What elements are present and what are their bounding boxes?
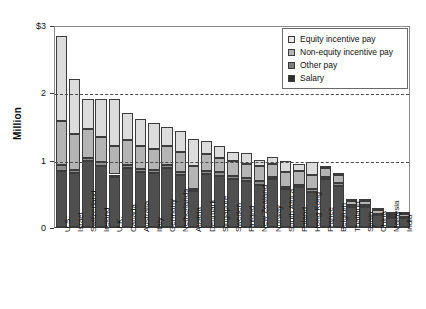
bar-segment-other	[293, 185, 304, 188]
bar-segment-other	[320, 177, 331, 180]
bar-segment-other	[201, 171, 212, 174]
legend-swatch-nonequity	[288, 49, 295, 56]
bar-segment-equity	[56, 36, 67, 121]
bar-segment-nonequity	[69, 134, 80, 170]
x-tick-label: Denmark	[209, 200, 217, 232]
x-tick-label: Ireland	[103, 208, 111, 232]
y-tick-label: 2	[24, 89, 46, 98]
bar-segment-equity	[122, 113, 133, 141]
bar-segment-other	[175, 172, 186, 175]
x-tick-label: Sweden	[235, 203, 243, 232]
x-axis-labels: U.S.IsraelSwitzerlandIrelandU.K.CanadaAu…	[54, 230, 410, 309]
legend-item: Non-equity incentive pay	[288, 46, 402, 58]
bar-segment-other	[82, 158, 93, 161]
bar-segment-equity	[333, 173, 344, 175]
bar-segment-equity	[293, 164, 304, 171]
bar-segment-other	[135, 169, 146, 172]
bar-segment-other	[56, 165, 67, 171]
bar-segment-other	[241, 178, 252, 181]
y-axis-ticks: 012$3	[0, 0, 54, 309]
bar-segment-equity	[109, 99, 120, 146]
gridline	[55, 94, 409, 95]
legend-label: Non-equity incentive pay	[300, 48, 393, 57]
bar-segment-nonequity	[56, 121, 67, 165]
bar-segment-nonequity	[95, 137, 106, 162]
bar-segment-other	[122, 165, 133, 168]
bar-segment-equity	[254, 160, 265, 166]
bar-segment-other	[333, 183, 344, 186]
x-tick-label: Belgium	[340, 203, 348, 232]
x-tick-label: Malaysia	[393, 200, 401, 232]
bar-segment-equity	[69, 79, 80, 134]
legend-item: Equity incentive pay	[288, 33, 402, 45]
bar-segment-other	[95, 162, 106, 165]
legend-item: Salary	[288, 72, 402, 84]
x-tick-label: China	[380, 211, 388, 232]
bar-segment-other	[214, 172, 225, 175]
bar-segment-nonequity	[241, 164, 252, 177]
legend-swatch-equity	[288, 36, 295, 43]
bar-segment-nonequity	[135, 146, 146, 170]
y-tick-mark	[50, 228, 54, 229]
bar-segment-nonequity	[82, 129, 93, 159]
x-tick-label: India	[406, 215, 414, 232]
x-tick-label: Israel	[77, 212, 85, 232]
bar-segment-other	[109, 175, 120, 178]
bar-segment-other	[267, 177, 278, 180]
bar-segment-nonequity	[280, 172, 291, 187]
x-tick-label: Poland	[301, 207, 309, 232]
bar-segment-nonequity	[109, 146, 120, 174]
bar-segment-other	[161, 165, 172, 168]
bar-segment-other	[148, 170, 159, 173]
bar-segment-equity	[227, 152, 238, 161]
x-tick-label: New Zealand	[261, 185, 269, 232]
x-tick-label: Switzerland	[90, 191, 98, 232]
legend-swatch-salary	[288, 75, 295, 82]
bar-segment-other	[227, 176, 238, 179]
gridline	[55, 162, 409, 163]
x-tick-label: U.S.	[64, 216, 72, 232]
legend: Equity incentive payNon-equity incentive…	[282, 28, 408, 89]
bar-segment-nonequity	[320, 168, 331, 177]
bar-segment-equity	[241, 153, 252, 164]
bar-segment-nonequity	[227, 161, 238, 176]
bar-segment-equity	[175, 131, 186, 151]
legend-label: Salary	[300, 74, 324, 83]
legend-label: Other pay	[300, 61, 337, 70]
x-tick-label: Germany	[169, 199, 177, 232]
x-tick-label: Finland	[248, 206, 256, 232]
x-tick-label: U.K.	[116, 216, 124, 232]
bar	[69, 79, 80, 227]
y-tick-label: $3	[24, 22, 46, 31]
legend-label: Equity incentive pay	[300, 35, 376, 44]
x-tick-label: Thailand	[354, 201, 362, 232]
x-tick-label: Singapore	[222, 196, 230, 232]
y-tick-label: 0	[24, 224, 46, 233]
stacked-bar-chart: Million 012$3 U.S.IsraelSwitzerlandIrela…	[0, 0, 426, 309]
bar-segment-other	[69, 170, 80, 173]
bar-segment-equity	[135, 119, 146, 145]
x-tick-label: France	[327, 207, 335, 232]
bar	[56, 36, 67, 227]
bar-segment-equity	[95, 99, 106, 137]
x-tick-label: Norway	[275, 205, 283, 232]
bar-segment-nonequity	[293, 171, 304, 184]
bar-segment-nonequity	[306, 175, 317, 189]
bar-segment-equity	[82, 99, 93, 129]
bar-segment-equity	[161, 127, 172, 146]
bar-segment-equity	[148, 123, 159, 149]
x-tick-label: Austria	[195, 207, 203, 232]
bar-segment-nonequity	[267, 164, 278, 176]
x-tick-label: Canada	[130, 204, 138, 232]
x-tick-label: Australia	[143, 201, 151, 232]
bar-segment-equity	[306, 162, 317, 175]
x-tick-label: Spain	[367, 212, 375, 232]
x-tick-label: South Africa	[288, 189, 296, 232]
bar-segment-nonequity	[333, 175, 344, 183]
bar-segment-nonequity	[214, 158, 225, 173]
bar-segment-nonequity	[201, 154, 212, 171]
y-tick-label: 1	[24, 157, 46, 166]
x-tick-label: Hong Kong	[314, 192, 322, 232]
bar-segment-equity	[320, 166, 331, 168]
legend-swatch-other	[288, 62, 295, 69]
